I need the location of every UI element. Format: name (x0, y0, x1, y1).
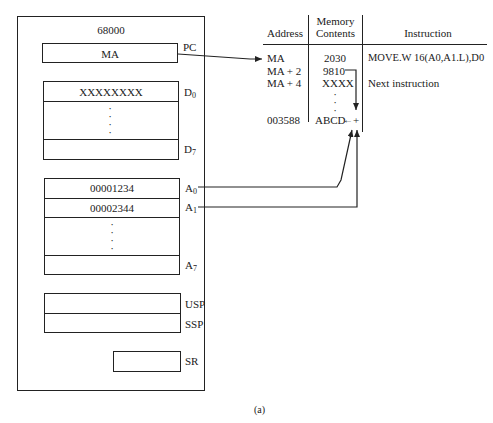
connector-arrows (0, 0, 493, 423)
pc-to-ma-arrow (178, 54, 262, 59)
displacement-arrow (345, 70, 356, 110)
figure-caption: (a) (254, 404, 265, 416)
a1-to-sum-arrow (198, 130, 357, 207)
a0-to-sum-arrow (198, 130, 352, 187)
